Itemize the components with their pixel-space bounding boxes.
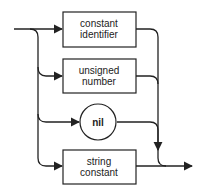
syntax-diagram: constant identifier unsigned number nil … bbox=[0, 0, 212, 195]
label: string bbox=[87, 156, 111, 167]
branch-nil bbox=[38, 114, 79, 122]
label: nil bbox=[92, 117, 104, 128]
label: constant bbox=[80, 167, 118, 178]
label: constant bbox=[80, 18, 118, 29]
branch-string bbox=[30, 29, 62, 166]
merge-trunk bbox=[136, 29, 158, 158]
merge-nil bbox=[117, 122, 158, 150]
label: number bbox=[82, 76, 117, 87]
branch-number bbox=[38, 67, 62, 76]
label: identifier bbox=[80, 29, 118, 40]
merge-number bbox=[136, 76, 158, 84]
diagram-canvas: constant identifier unsigned number nil … bbox=[0, 0, 212, 195]
label: unsigned bbox=[79, 65, 120, 76]
